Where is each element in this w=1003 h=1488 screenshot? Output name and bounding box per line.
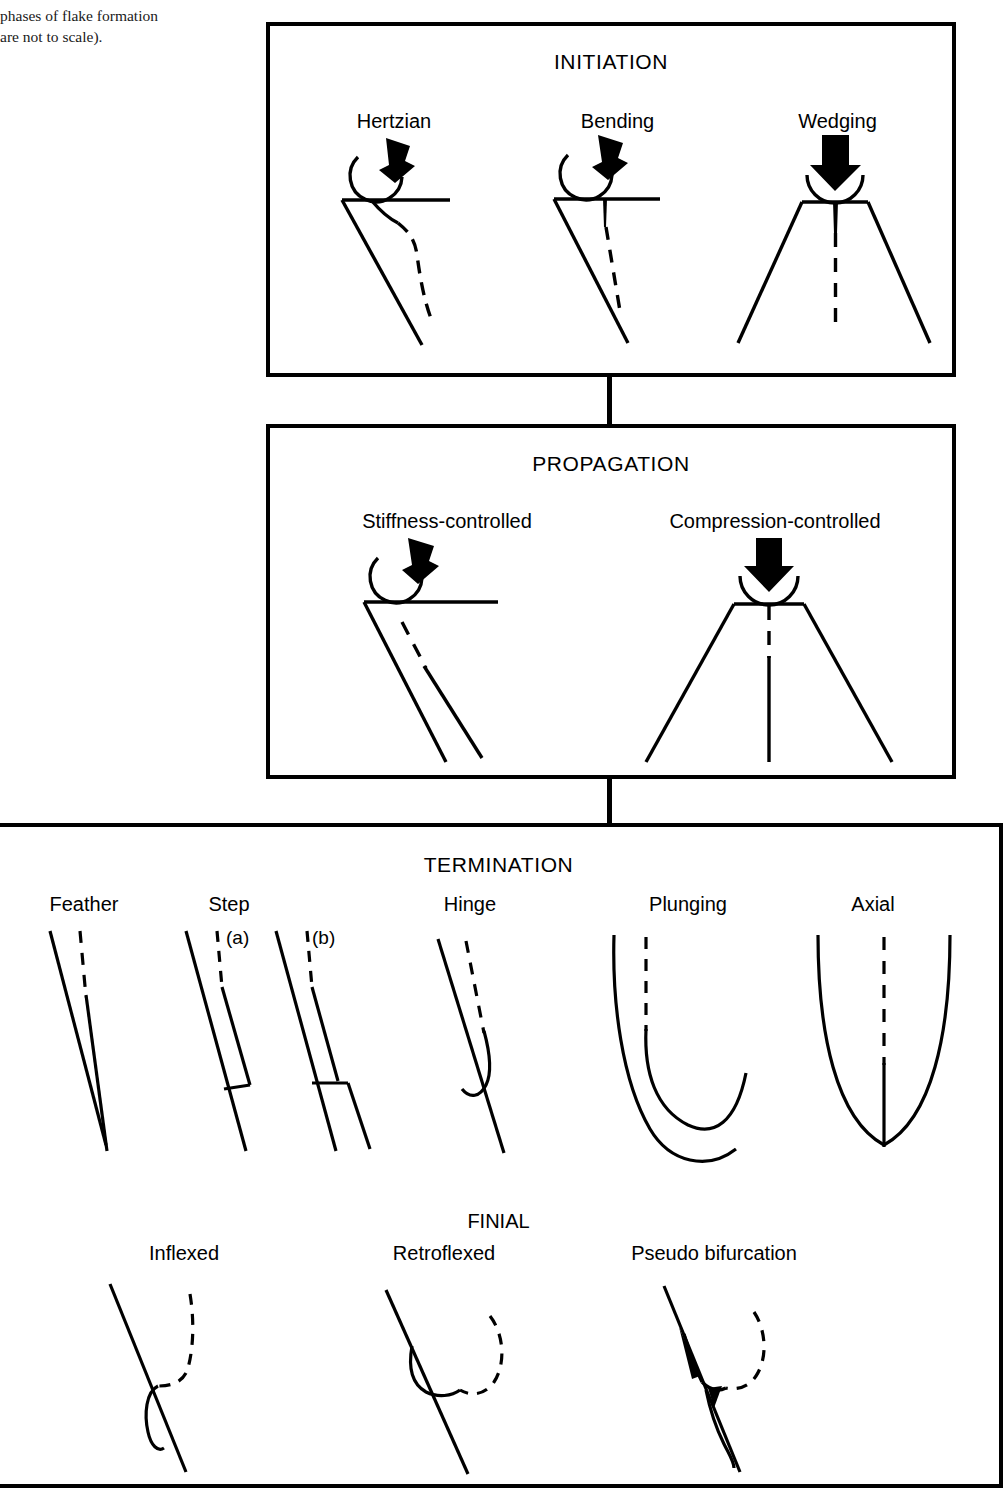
diagram-label-step: Step (164, 893, 294, 916)
diagram-inflexed: Inflexed (84, 1242, 284, 1482)
compression-force-arrow (744, 538, 794, 592)
diagram-label-wedging: Wedging (730, 110, 945, 133)
bending-force-arrow (592, 135, 628, 180)
compression-controlled-drawing (630, 538, 920, 770)
retroflexed-drawing (334, 1272, 554, 1480)
hertzian-force-arrow (379, 138, 415, 183)
phase-title-propagation: PROPAGATION (270, 452, 952, 476)
retroflexed-core-edge (386, 1290, 468, 1474)
stiffness-crack-solid (424, 666, 482, 758)
axial-left-outline (818, 935, 884, 1145)
feather-drawing (14, 923, 154, 1163)
diagram-compression-controlled: Compression-controlled (630, 510, 920, 770)
diagram-wedging: Wedging (730, 110, 945, 360)
axial-right-outline (884, 935, 950, 1145)
bending-crack-root (603, 199, 607, 227)
pseudo-crack-dashed (726, 1312, 764, 1389)
diagram-feather: Feather (14, 893, 154, 1163)
pseudo-arrowhead-up (679, 1327, 700, 1379)
wedging-right-face (868, 202, 930, 343)
plunging-drawing (588, 923, 788, 1183)
wedging-drawing (730, 135, 945, 360)
diagram-hertzian: Hertzian (294, 110, 494, 360)
diagram-stiffness-controlled: Stiffness-controlled (322, 510, 572, 770)
diagram-label-retroflexed: Retroflexed (334, 1242, 554, 1265)
diagram-label-pseudo-bifurcation: Pseudo bifurcation (584, 1242, 844, 1265)
phase-box-initiation: INITIATION Hertzian Bending (266, 22, 956, 377)
axial-drawing (798, 923, 988, 1183)
hertzian-core-edge (342, 200, 422, 345)
connector-propagation-to-termination (607, 779, 612, 823)
diagram-label-hinge: Hinge (390, 893, 550, 916)
diagram-plunging: Plunging (588, 893, 788, 1183)
phase-title-initiation: INITIATION (270, 50, 952, 74)
diagram-label-bending: Bending (520, 110, 715, 133)
pseudo-bifurcation-drawing (584, 1272, 844, 1480)
diagram-label-stiffness-controlled: Stiffness-controlled (322, 510, 572, 533)
diagram-hinge: Hinge (390, 893, 550, 1163)
finial-title: FINIAL (0, 1210, 999, 1233)
caption-line-1: phases of flake formation (0, 6, 250, 27)
bending-crack-dashed (606, 227, 620, 311)
diagram-label-inflexed: Inflexed (84, 1242, 284, 1265)
stiffness-force-arrow (402, 538, 439, 584)
bending-drawing (520, 135, 715, 360)
wedging-left-face (738, 202, 802, 343)
diagram-bending: Bending (520, 110, 715, 360)
diagram-label-compression-controlled: Compression-controlled (630, 510, 920, 533)
inflexed-drawing (84, 1272, 284, 1480)
diagram-label-hertzian: Hertzian (294, 110, 494, 133)
wedging-force-arrow (810, 135, 861, 191)
retroflexed-crack-hook (411, 1346, 460, 1396)
retroflexed-crack-dashed (460, 1316, 502, 1394)
diagram-label-feather: Feather (14, 893, 154, 916)
step-drawing (164, 923, 384, 1163)
step-b-crack-solid (312, 987, 338, 1081)
hertzian-initiation-curve (372, 201, 398, 223)
diagram-axial: Axial (798, 893, 988, 1183)
wedging-crack-root (833, 202, 838, 233)
diagram-retroflexed: Retroflexed (334, 1242, 554, 1482)
step-a-crack-solid (222, 987, 250, 1085)
step-b-crack-dashed (307, 931, 312, 987)
feather-crack-dashed (80, 931, 86, 997)
connector-initiation-to-propagation (607, 377, 612, 424)
diagram-pseudo-bifurcation: Pseudo bifurcation (584, 1242, 844, 1482)
feather-crack-solid (86, 995, 107, 1151)
pseudo-branch-lower (706, 1390, 734, 1468)
caption-line-2: are not to scale). (0, 27, 250, 48)
inflexed-core-edge (110, 1284, 186, 1472)
step-b-crack-continue (348, 1083, 370, 1149)
hinge-drawing (390, 923, 550, 1163)
diagram-step: Step (a) (b) (164, 893, 384, 1163)
hertzian-drawing (294, 135, 494, 360)
phase-title-termination: TERMINATION (0, 853, 999, 877)
compression-right-face (804, 604, 892, 762)
stiffness-controlled-drawing (322, 538, 572, 770)
hertzian-crack-dashed (398, 223, 432, 321)
compression-left-face (646, 604, 734, 762)
stiffness-crack-dashed (402, 622, 426, 668)
feather-core-edge (50, 931, 106, 1145)
diagram-label-plunging: Plunging (588, 893, 788, 916)
diagram-label-axial: Axial (798, 893, 948, 916)
phase-box-propagation: PROPAGATION Stiffness-controlled Compres… (266, 424, 956, 779)
hinge-crack-dashed (466, 941, 484, 1033)
plunging-crack-solid (646, 1029, 746, 1129)
bending-core-edge (554, 199, 628, 343)
figure-caption: phases of flake formation are not to sca… (0, 6, 250, 48)
inflexed-crack-dashed (158, 1294, 193, 1386)
phase-box-termination: TERMINATION Feather Step (a) (b) (0, 823, 1003, 1488)
step-a-crack-dashed (217, 931, 222, 987)
